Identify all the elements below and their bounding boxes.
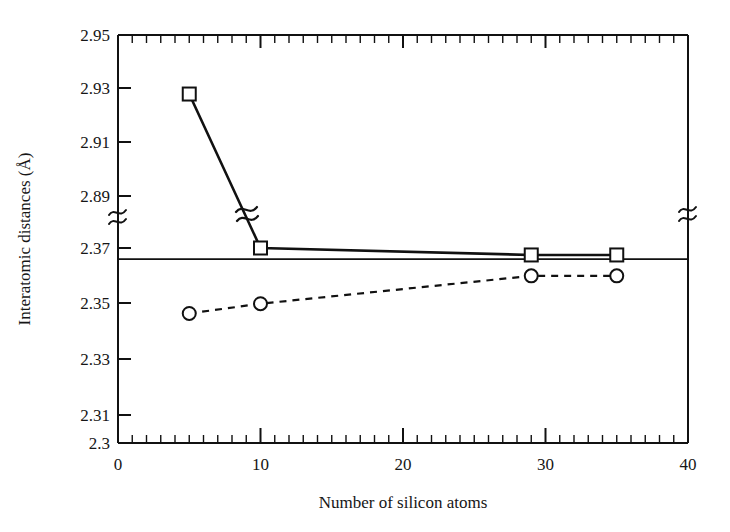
- xtick-label-20: 20: [395, 455, 412, 474]
- chart-figure: 2.95 2.93 2.91 2.89 2.37 2.35 2.33 2.31 …: [0, 0, 730, 532]
- ytick-label-2.95: 2.95: [80, 26, 110, 45]
- square-marker-n5: [183, 88, 196, 101]
- ytick-label-2.89: 2.89: [80, 187, 110, 206]
- y-axis-title: Interatomic distances (Å): [15, 153, 34, 326]
- ytick-label-2.93: 2.93: [80, 79, 110, 98]
- ytick-label-2.37: 2.37: [80, 239, 110, 258]
- circle-marker-n10: [254, 297, 267, 310]
- squares-series-markers: [183, 88, 624, 262]
- ytick-label-2.35: 2.35: [80, 294, 110, 313]
- circle-marker-n29: [525, 269, 538, 282]
- square-marker-n10: [254, 242, 267, 255]
- xtick-label-40: 40: [680, 455, 697, 474]
- square-marker-n35: [610, 248, 623, 261]
- circle-marker-n5: [183, 307, 196, 320]
- ytick-label-2.33: 2.33: [80, 350, 110, 369]
- interatomic-distances-chart: 2.95 2.93 2.91 2.89 2.37 2.35 2.33 2.31 …: [0, 0, 730, 532]
- plot-frame: [118, 35, 688, 443]
- xtick-label-0: 0: [114, 455, 123, 474]
- squares-series-line: [189, 94, 617, 255]
- y-axis-ticks: [118, 35, 131, 443]
- ytick-label-2.3: 2.3: [89, 434, 110, 453]
- x-axis-title: Number of silicon atoms: [319, 493, 488, 512]
- x-axis-minor-ticks-top: [132, 35, 674, 48]
- circle-marker-n35: [610, 269, 623, 282]
- square-marker-n29: [525, 248, 538, 261]
- ytick-label-2.91: 2.91: [80, 133, 110, 152]
- ytick-label-2.31: 2.31: [80, 406, 110, 425]
- y-tick-labels: 2.95 2.93 2.91 2.89 2.37 2.35 2.33 2.31 …: [80, 26, 110, 453]
- circles-series-line: [189, 276, 617, 314]
- series-break-icon: [236, 207, 258, 221]
- xtick-label-30: 30: [537, 455, 554, 474]
- x-tick-labels: 0 10 20 30 40: [114, 455, 697, 474]
- xtick-label-10: 10: [252, 455, 269, 474]
